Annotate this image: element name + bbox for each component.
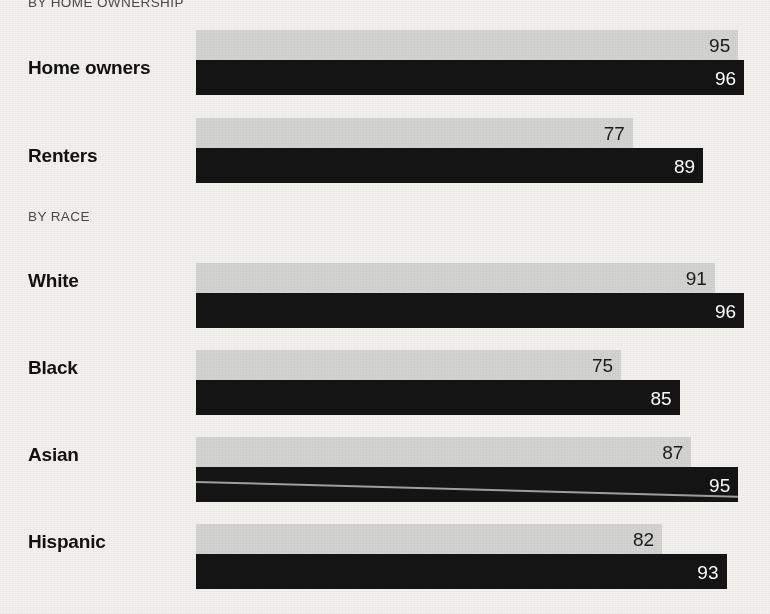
section-heading-ownership: BY HOME OWNERSHIP	[28, 0, 184, 10]
category-label: Black	[28, 357, 78, 379]
bar-dark: 89	[196, 148, 703, 183]
category-label: Home owners	[28, 57, 150, 79]
bar-value-label: 91	[686, 269, 707, 288]
bar-light: 75	[196, 350, 621, 380]
bar-value-label: 82	[633, 530, 654, 549]
bar-light: 77	[196, 118, 633, 148]
category-label: Renters	[28, 145, 97, 167]
bar-dark: 95	[196, 467, 738, 502]
bar-dark: 96	[196, 293, 744, 328]
bar-value-label: 85	[651, 388, 672, 407]
bar-light: 82	[196, 524, 662, 554]
bar-value-label: 87	[662, 443, 683, 462]
bar-light: 91	[196, 263, 715, 293]
bar-value-label: 89	[674, 156, 695, 175]
bar-value-label: 75	[592, 356, 613, 375]
section-heading-race: BY RACE	[28, 209, 90, 224]
bar-dark: 85	[196, 380, 680, 415]
bar-dark: 96	[196, 60, 744, 95]
bar-value-label: 96	[715, 301, 736, 320]
bar-value-label: 95	[709, 36, 730, 55]
bar-value-label: 95	[709, 475, 730, 494]
category-label: Hispanic	[28, 531, 106, 553]
category-label: White	[28, 270, 79, 292]
bar-value-label: 93	[697, 562, 718, 581]
bar-value-label: 77	[604, 124, 625, 143]
bar-light: 95	[196, 30, 738, 60]
bar-light: 87	[196, 437, 691, 467]
bar-dark: 93	[196, 554, 727, 589]
category-label: Asian	[28, 444, 79, 466]
bar-value-label: 96	[715, 68, 736, 87]
